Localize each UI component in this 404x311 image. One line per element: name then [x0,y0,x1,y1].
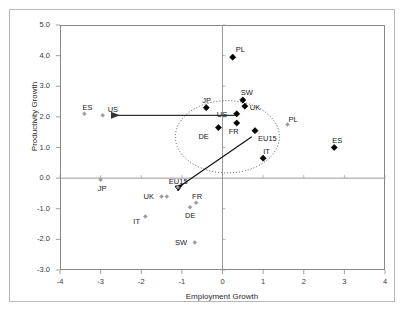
x-tick-label: -4 [52,277,68,286]
x-tick-label: 0 [215,277,231,286]
data-point-label: ES [332,136,342,145]
data-point-marker [101,113,105,117]
data-point-label: FR [229,127,239,136]
y-tick-label: -3.0 [26,265,50,274]
data-point-label: FR [192,192,202,201]
y-axis-title: Productivity Growth [30,57,39,177]
data-point-label: US [217,110,227,119]
data-points [82,54,337,244]
data-point-marker [215,124,221,130]
x-tick-label: 1 [255,277,271,286]
data-point-label: EU15 [169,177,188,186]
x-tick-label: -1 [174,277,190,286]
x-axis-title: Employment Growth [122,292,322,301]
data-point-marker [82,112,86,116]
data-point-marker [193,240,197,244]
data-point-marker [143,214,147,218]
chart-canvas [0,0,404,311]
data-point-label: SW [175,238,187,247]
y-tick-label: -1.0 [26,204,50,213]
x-tick-label: 3 [336,277,352,286]
data-point-label: UK [144,192,154,201]
data-point-marker [160,195,164,199]
data-point-marker [165,195,169,199]
data-point-label: DE [198,132,208,141]
data-point-label: JP [98,184,107,193]
data-point-label: PL [236,45,245,54]
data-point-marker [203,105,209,111]
data-point-label: UK [250,103,260,112]
data-point-label: JP [202,96,211,105]
data-point-label: IT [133,217,140,226]
y-tick-label: -2.0 [26,234,50,243]
chart-figure: ESUSPLJPUKEU15FRDEITSWPLSWUKJPUSFRDEEU15… [0,0,404,311]
data-point-label: US [108,105,118,114]
data-point-label: PL [289,115,298,124]
data-point-marker [234,111,240,117]
data-point-marker [188,205,192,209]
x-tick-label: -2 [133,277,149,286]
data-point-label: EU15 [258,134,277,143]
data-point-marker [234,120,240,126]
data-point-label: IT [263,147,270,156]
data-point-label: DE [185,211,195,220]
x-tick-label: 4 [377,277,393,286]
data-point-label: ES [82,103,92,112]
data-point-marker [194,201,198,205]
x-tick-label: 2 [296,277,312,286]
data-point-marker [331,144,337,150]
y-tick-label: 5.0 [26,20,50,29]
data-point-label: SW [241,88,253,97]
data-point-marker [230,54,236,60]
data-point-marker [242,103,248,109]
x-tick-label: -3 [93,277,109,286]
